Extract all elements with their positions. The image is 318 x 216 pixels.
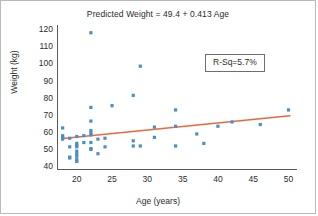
data-point (82, 134, 85, 137)
data-point (75, 135, 78, 138)
data-point (82, 141, 85, 144)
data-point (103, 137, 106, 140)
data-point (89, 141, 92, 144)
y-tick-label: 50 (29, 144, 53, 154)
status-badge: R-Sq=5.7% (205, 54, 265, 72)
y-tick-label: 90 (29, 76, 53, 86)
data-point (89, 119, 92, 122)
x-tick-label: 35 (168, 174, 198, 184)
axis-lines (57, 25, 297, 170)
data-point (75, 160, 78, 163)
y-axis-tick-labels: 405060708090100110120 (29, 25, 53, 170)
y-tick-label: 60 (29, 127, 53, 137)
x-tick-label: 45 (238, 174, 268, 184)
data-point (61, 138, 64, 141)
plot-area (57, 25, 297, 170)
y-tick-label: 110 (29, 41, 53, 51)
data-point (287, 108, 290, 111)
data-points (61, 31, 290, 163)
data-point (139, 144, 142, 147)
data-point (89, 148, 92, 151)
data-point (153, 136, 156, 139)
data-point (110, 104, 113, 107)
y-tick-label: 100 (29, 58, 53, 68)
data-point (153, 126, 156, 129)
x-axis-label: Age (years) (1, 196, 315, 206)
x-tick-label: 50 (274, 174, 304, 184)
data-point (132, 144, 135, 147)
x-tick-label: 30 (132, 174, 162, 184)
data-point (216, 125, 219, 128)
data-point (89, 31, 92, 34)
data-point (89, 106, 92, 109)
data-point (132, 94, 135, 97)
data-point (75, 145, 78, 148)
scatter-plot-svg (57, 25, 297, 170)
data-point (68, 137, 71, 140)
y-tick-label: 70 (29, 110, 53, 120)
data-point (202, 142, 205, 145)
data-point (61, 126, 64, 129)
data-point (103, 145, 106, 148)
x-tick-label: 40 (203, 174, 233, 184)
data-point (139, 65, 142, 68)
y-tick-label: 40 (29, 161, 53, 171)
chart-title: Predicted Weight = 49.4 + 0.413 Age (1, 9, 315, 19)
data-point (75, 155, 78, 158)
r-squared-text: R-Sq=5.7% (213, 57, 257, 67)
data-point (195, 132, 198, 135)
data-point (174, 108, 177, 111)
chart-figure: Predicted Weight = 49.4 + 0.413 Age Weig… (0, 0, 316, 214)
data-point (96, 138, 99, 141)
data-point (68, 156, 71, 159)
x-tick-label: 20 (62, 174, 92, 184)
x-tick-label: 25 (97, 174, 127, 184)
data-point (96, 152, 99, 155)
data-point (230, 120, 233, 123)
data-point (174, 125, 177, 128)
data-point (68, 145, 71, 148)
y-tick-label: 80 (29, 93, 53, 103)
data-point (132, 139, 135, 142)
y-axis-label: Weight (kg) (9, 32, 19, 112)
y-tick-label: 120 (29, 24, 53, 34)
x-axis-tick-labels: 20253035404550 (57, 174, 297, 188)
data-point (259, 123, 262, 126)
data-point (89, 133, 92, 136)
data-point (174, 144, 177, 147)
